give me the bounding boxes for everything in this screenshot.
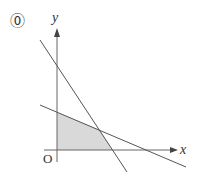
x-axis-arrow-icon	[170, 147, 178, 153]
x-axis-label: x	[179, 142, 187, 157]
origin-label: O	[43, 151, 52, 166]
graph-figure: ⓪ y x O	[0, 0, 202, 180]
y-axis-arrow-icon	[54, 28, 60, 37]
shaded-feasible-region	[57, 112, 112, 150]
y-axis-label: y	[50, 10, 59, 25]
steep-line	[40, 40, 127, 172]
problem-label: ⓪	[10, 13, 25, 29]
